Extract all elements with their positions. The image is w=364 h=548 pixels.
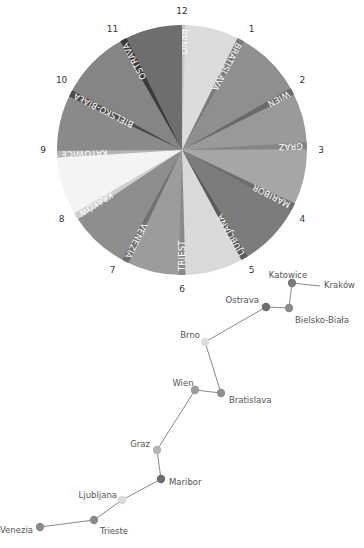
route-stop: Kraków xyxy=(324,280,355,290)
stop-city-label: Kraków xyxy=(324,280,355,290)
stop-dot-icon xyxy=(288,279,296,287)
stop-city-label: Ljubljana xyxy=(79,490,117,500)
stop-dot-icon xyxy=(285,304,293,312)
route-stop: Bielsko-Biała xyxy=(285,304,349,325)
wedge-city-label: GRAZ xyxy=(278,141,303,152)
clock-pie-chart: BRNOBRATISLAVAWIENGRAZMARIBORLJUBLJANATR… xyxy=(57,25,307,275)
route-stop: Graz xyxy=(130,439,161,455)
stop-city-label: Brno xyxy=(180,330,200,340)
route-stop: Venezia xyxy=(0,523,44,535)
stop-dot-icon xyxy=(118,496,126,504)
stop-dot-icon xyxy=(217,389,225,397)
stop-city-label: Katowice xyxy=(269,270,307,280)
hour-label: 6 xyxy=(179,284,185,294)
hour-label: 11 xyxy=(107,24,118,34)
route-stop: Ljubljana xyxy=(79,490,127,505)
diagram-canvas: BRNOBRATISLAVAWIENGRAZMARIBORLJUBLJANATR… xyxy=(0,0,364,548)
hour-label: 1 xyxy=(249,24,255,34)
route-map: KrakówKatowiceBielsko-BiałaOstravaBrnoBr… xyxy=(0,270,355,536)
wedge-city-label: KATOWICE xyxy=(61,148,108,160)
route-stop: Bratislava xyxy=(217,389,272,405)
hour-label: 4 xyxy=(300,214,306,224)
stop-city-label: Graz xyxy=(130,439,150,449)
hour-label: 10 xyxy=(56,75,68,85)
stop-dot-icon xyxy=(90,516,98,524)
route-stop: Wien xyxy=(172,378,199,395)
stop-dot-icon xyxy=(262,303,270,311)
route-stop: Trieste xyxy=(90,516,128,536)
stop-city-label: Venezia xyxy=(0,525,33,535)
hour-label: 9 xyxy=(40,145,46,155)
hour-label: 8 xyxy=(59,214,65,224)
stop-city-label: Ostrava xyxy=(226,295,259,305)
hour-label: 12 xyxy=(176,6,187,16)
route-stop: Brno xyxy=(180,330,209,347)
hour-label: 3 xyxy=(318,145,324,155)
stop-city-label: Wien xyxy=(172,378,193,388)
wedge-city-label: TRIEST xyxy=(177,240,187,272)
hour-label: 2 xyxy=(300,75,306,85)
route-stop: Ostrava xyxy=(226,295,271,312)
stop-dot-icon xyxy=(201,338,209,346)
hour-label: 7 xyxy=(110,265,116,275)
route-stop: Maribor xyxy=(157,475,202,487)
stop-dot-icon xyxy=(157,475,165,483)
stop-dot-icon xyxy=(153,446,161,454)
stop-dot-icon xyxy=(36,523,44,531)
stop-city-label: Maribor xyxy=(169,477,202,487)
stop-city-label: Bielsko-Biała xyxy=(295,315,349,325)
stop-city-label: Bratislava xyxy=(229,395,271,405)
stop-city-label: Trieste xyxy=(99,526,128,536)
route-stop: Katowice xyxy=(269,270,307,288)
hour-label: 5 xyxy=(249,265,255,275)
